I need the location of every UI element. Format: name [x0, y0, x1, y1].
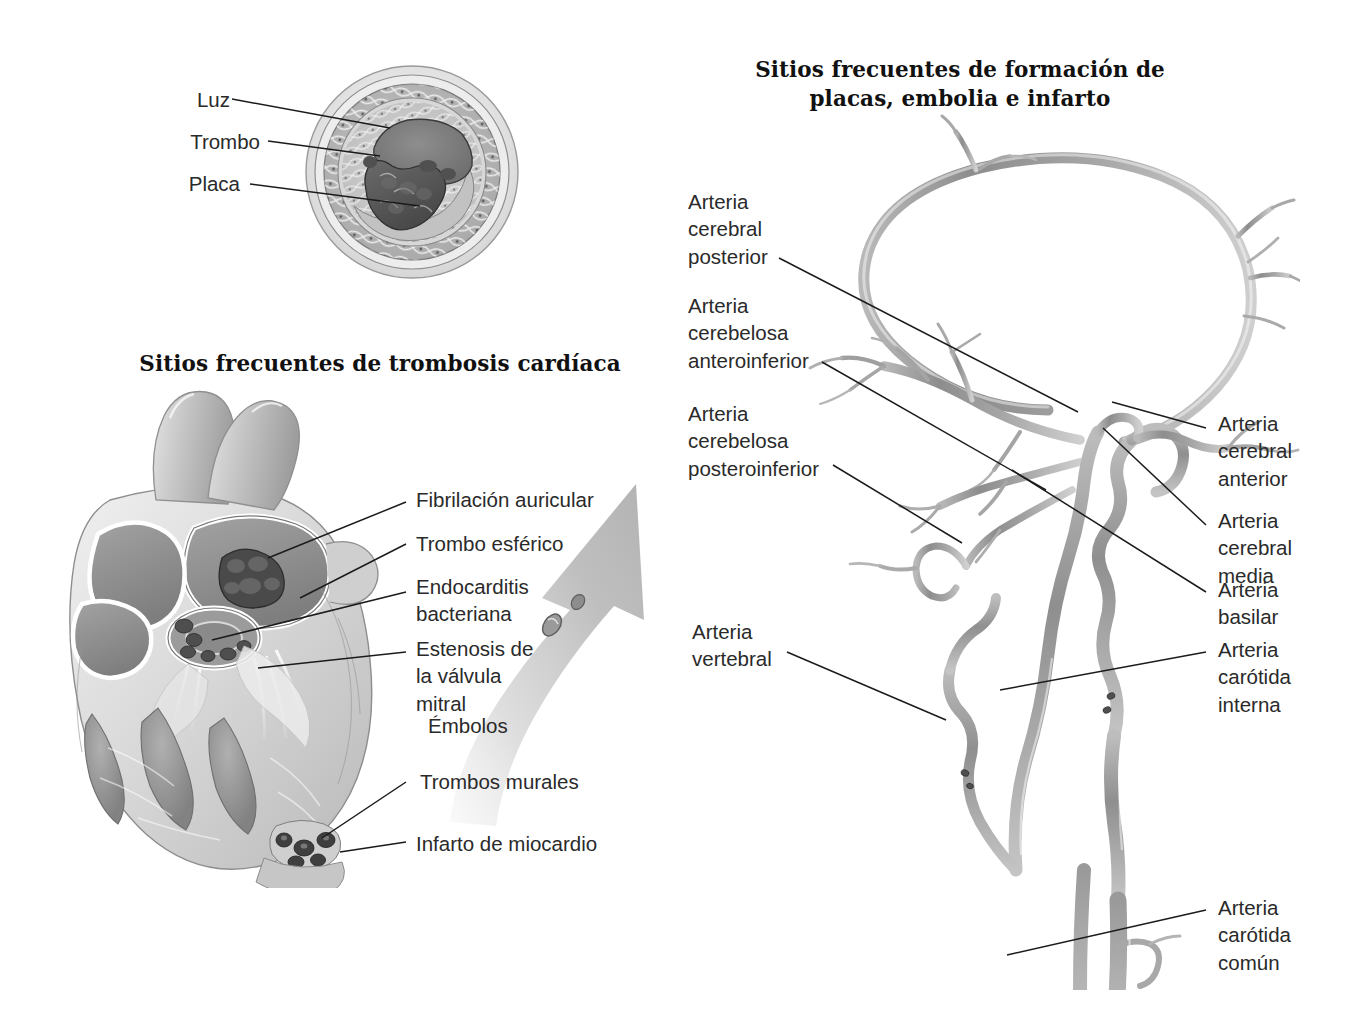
label-trombo-esferico: Trombo esférico: [416, 530, 636, 557]
label-fibrilacion-auricular: Fibrilación auricular: [416, 486, 636, 513]
label-endocarditis-bacteriana: Endocarditis bacteriana: [416, 573, 596, 628]
label-arteria-basilar: Arteria basilar: [1218, 576, 1348, 631]
label-arteria-carotida-interna: Arteria carótida interna: [1218, 636, 1348, 718]
label-infarto-miocardio: Infarto de miocardio: [416, 830, 656, 857]
label-arteria-cerebelosa-posteroinferior: Arteria cerebelosa posteroinferior: [688, 400, 853, 482]
label-arteria-cerebral-posterior: Arteria cerebral posterior: [688, 188, 838, 270]
label-arteria-cerebral-anterior: Arteria cerebral anterior: [1218, 410, 1348, 492]
vessel-label-placa: Placa: [120, 170, 240, 197]
vessel-artwork: [296, 62, 528, 282]
cerebral-panel-title: Sitios frecuentes de formación de placas…: [720, 56, 1200, 114]
label-arteria-carotida-comun: Arteria carótida común: [1218, 894, 1348, 976]
label-arteria-vertebral: Arteria vertebral: [692, 618, 832, 673]
vessel-label-luz: Luz: [120, 86, 230, 113]
label-trombos-murales: Trombos murales: [420, 768, 640, 795]
label-embolos: Émbolos: [428, 712, 588, 739]
heart-artwork: [38, 388, 408, 888]
heart-illustration: [38, 388, 408, 888]
figure-canvas: Luz Trombo Placa Sitios frecuentes de fo…: [0, 0, 1350, 1032]
label-estenosis-valvula-mitral: Estenosis de la válvula mitral: [416, 635, 596, 717]
heart-panel-title: Sitios frecuentes de trombosis cardíaca: [110, 350, 650, 379]
vessel-cross-section-illustration: [296, 62, 528, 282]
mural-thrombi: [270, 820, 341, 870]
vessel-label-trombo: Trombo: [120, 128, 260, 155]
label-arteria-cerebelosa-anteroinferior: Arteria cerebelosa anteroinferior: [688, 292, 853, 374]
